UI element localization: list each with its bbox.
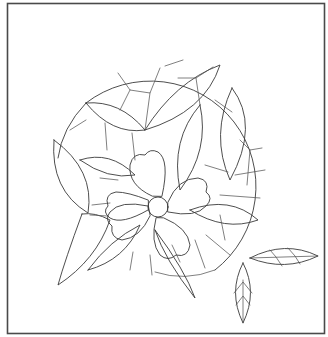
pattern-drawing: [0, 0, 328, 337]
horizontal-leaf-vein-2: [288, 248, 300, 264]
flower-center-circle: [148, 197, 168, 217]
petal-left-lower: [107, 204, 150, 240]
leaf-upper-left: [86, 103, 145, 131]
circle-outline-left: [58, 103, 86, 158]
horizontal-leaf-midrib: [250, 256, 318, 258]
stained-glass-pattern-canvas: Stained-glass line-art pattern: circular…: [0, 0, 328, 337]
petal-left: [105, 192, 148, 220]
leaf-right-lower: [190, 204, 258, 224]
petal-bottom: [154, 218, 190, 259]
petal-top: [130, 151, 165, 196]
leaf-inner-upper: [178, 105, 203, 190]
circular-panel: [54, 60, 265, 298]
leaf-left-inner: [80, 157, 135, 176]
leaf-lower-left: [58, 214, 110, 285]
circle-outline: [86, 81, 256, 270]
square-frame: [8, 4, 325, 334]
vertical-leaf: [234, 263, 252, 323]
leaf-top: [145, 65, 220, 130]
leaf-lower-mid: [88, 225, 140, 270]
petal-right: [168, 178, 210, 214]
horizontal-leaf: [250, 248, 318, 266]
